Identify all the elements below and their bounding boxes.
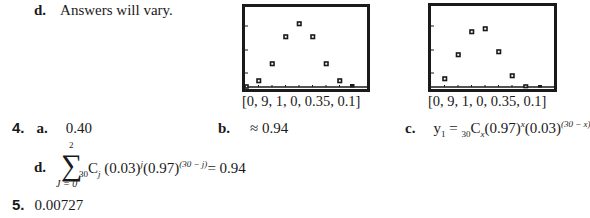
answer-4a-label: a. bbox=[37, 120, 48, 136]
answer-3d-label: d. bbox=[34, 2, 46, 18]
answer-4a: 4. a. 0.40 bbox=[12, 119, 92, 137]
calculator-plot-2 bbox=[428, 3, 557, 92]
problem-5-number: 5. bbox=[12, 196, 25, 213]
d-pre-sub: 30 bbox=[79, 169, 88, 179]
c-term2: (0.03) bbox=[525, 120, 561, 136]
answer-4d-formula: 30Cj (0.03)j(0.97)(30 − j)= 0.94 bbox=[79, 159, 246, 179]
sum-lower-limit: J = 0 bbox=[56, 178, 77, 189]
c-term2-exp: (30 − x) bbox=[561, 119, 590, 129]
answer-4b-label: b. bbox=[218, 120, 230, 136]
problem-4-number: 4. bbox=[12, 119, 25, 136]
answer-3d-text: Answers will vary. bbox=[60, 2, 173, 18]
scatter-plot-2 bbox=[431, 6, 554, 89]
plot-1-points bbox=[245, 22, 342, 88]
answer-4d-label: d. bbox=[34, 159, 46, 176]
d-combination: C bbox=[88, 160, 98, 176]
c-eq: = bbox=[445, 120, 461, 136]
answer-5: 5. 0.00727 bbox=[12, 196, 83, 214]
d-term1: (0.03) bbox=[101, 160, 141, 176]
c-term1: (0.97) bbox=[484, 120, 520, 136]
answer-4c: c. y1 = 30Cx(0.97)x(0.03)(30 − x) bbox=[405, 119, 590, 139]
d-term2: (0.97) bbox=[143, 160, 179, 176]
answer-4a-value: 0.40 bbox=[66, 120, 92, 136]
d-term2-exp: (30 − j) bbox=[179, 159, 207, 169]
answer-5-value: 0.00727 bbox=[35, 197, 84, 213]
scatter-plot-1 bbox=[245, 7, 367, 89]
c-combination: C bbox=[470, 120, 480, 136]
plot-2-points bbox=[443, 27, 528, 88]
plot-1-window-caption: [0, 9, 1, 0, 0.35, 0.1] bbox=[242, 93, 360, 110]
c-lhs: y bbox=[433, 120, 441, 136]
answer-3d: d. Answers will vary. bbox=[34, 1, 173, 19]
plot-2-window-caption: [0, 9, 1, 0, 0.35, 0.1] bbox=[428, 93, 546, 110]
answer-4c-formula: y1 = 30Cx(0.97)x(0.03)(30 − x) bbox=[433, 120, 590, 136]
calculator-plot-1 bbox=[242, 4, 370, 92]
answer-4b: b. ≈ 0.94 bbox=[218, 119, 288, 137]
answer-4c-label: c. bbox=[405, 120, 415, 136]
answer-4b-value: ≈ 0.94 bbox=[250, 120, 288, 136]
d-result: = 0.94 bbox=[207, 160, 245, 176]
